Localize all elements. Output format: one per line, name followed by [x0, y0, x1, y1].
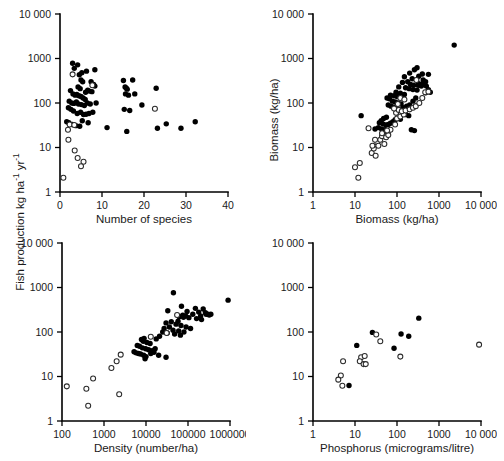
data-point-filled: [194, 316, 199, 321]
data-point-open: [164, 330, 169, 335]
data-point-open: [90, 83, 95, 88]
x-tick-label: 100: [388, 199, 406, 211]
data-point-filled: [85, 120, 90, 125]
y-tick-label: 1000: [281, 52, 305, 64]
data-point-open: [61, 175, 66, 180]
data-point-filled: [75, 62, 80, 67]
data-point-filled: [153, 86, 158, 91]
data-point-filled: [89, 89, 94, 94]
series-filled-circles: [346, 315, 421, 388]
data-point-filled: [186, 315, 191, 320]
data-point-open: [84, 386, 89, 391]
data-point-filled: [406, 113, 411, 118]
data-point-filled: [80, 79, 85, 84]
series-open-circles: [336, 332, 482, 388]
data-point-filled: [80, 118, 85, 123]
axis-frame: [313, 243, 481, 421]
y-tick-label: 10: [41, 370, 53, 382]
y-tick-label: 1: [47, 415, 53, 427]
y-tick-label: 10: [39, 141, 51, 153]
data-point-filled: [165, 308, 170, 313]
data-point-open: [380, 131, 385, 136]
y-axis-label-left-column: Fish production kg ha-1 yr-1: [14, 153, 26, 290]
data-point-open: [75, 156, 80, 161]
x-tick-label: 1: [310, 428, 316, 440]
data-point-open: [117, 392, 122, 397]
data-point-filled: [172, 331, 177, 336]
data-point-open: [148, 334, 153, 339]
x-axis-label: Phosphorus (micrograms/litre): [320, 442, 474, 454]
data-point-filled: [402, 74, 407, 79]
data-point-filled: [164, 121, 169, 126]
data-point-open: [374, 332, 379, 337]
y-tick-label: 1: [45, 186, 51, 198]
y-tick-label: 1000: [30, 281, 54, 293]
data-point-filled: [93, 100, 98, 105]
x-tick-label: 1000: [427, 428, 451, 440]
data-point-filled: [193, 119, 198, 124]
series-filled-circles: [358, 42, 456, 133]
axis-frame: [62, 243, 230, 421]
data-point-filled: [354, 343, 359, 348]
panel-phosphorus: 110100100010 000110100100010 000Phosphor…: [267, 239, 497, 455]
data-point-filled: [412, 128, 417, 133]
data-point-filled: [163, 355, 168, 360]
data-point-filled: [70, 61, 75, 66]
x-tick-label: 10 000: [465, 428, 497, 440]
data-point-open: [392, 106, 397, 111]
data-point-filled: [77, 86, 82, 91]
data-point-open: [72, 148, 77, 153]
data-point-open: [72, 123, 77, 128]
x-tick-label: 1: [310, 199, 316, 211]
panel-species: 010203040110100100010 000Number of speci…: [14, 10, 244, 226]
data-point-open: [118, 352, 123, 357]
data-point-filled: [147, 341, 152, 346]
data-point-filled: [92, 67, 97, 72]
data-point-filled: [400, 80, 405, 85]
y-tick-label: 10 000: [19, 10, 51, 20]
y-tick-label: 100: [35, 326, 53, 338]
x-tick-label: 100: [53, 428, 71, 440]
x-tick-label: 10: [96, 199, 108, 211]
y-tick-label: 100: [286, 326, 304, 338]
x-tick-label: 10: [349, 199, 361, 211]
data-point-filled: [139, 102, 144, 107]
data-point-filled: [181, 315, 186, 320]
y-tick-label: 10 000: [272, 10, 304, 20]
data-point-filled: [90, 110, 95, 115]
y-tick-label: 10: [292, 141, 304, 153]
data-point-open: [152, 106, 157, 111]
data-point-filled: [156, 353, 161, 358]
data-point-filled: [77, 124, 82, 129]
x-tick-label: 100000: [170, 428, 205, 440]
data-point-open: [64, 384, 69, 389]
y-tick-label: 1000: [28, 52, 52, 64]
x-axis-label: Number of species: [96, 213, 192, 225]
y-tick-label: 1000: [281, 281, 305, 293]
y-axis-label-right-column: Biomass (kg/ha): [268, 78, 280, 161]
x-tick-label: 100: [388, 428, 406, 440]
data-point-filled: [451, 42, 456, 47]
data-point-open: [398, 354, 403, 359]
data-point-open: [336, 377, 341, 382]
data-point-open: [426, 89, 431, 94]
y-tick-label: 10: [292, 370, 304, 382]
data-point-filled: [88, 101, 93, 106]
data-point-filled: [171, 290, 176, 295]
y-tick-label: 100: [33, 97, 51, 109]
data-point-open: [393, 122, 398, 127]
data-point-open: [385, 128, 390, 133]
data-point-open: [376, 143, 381, 148]
data-point-open: [414, 77, 419, 82]
data-point-open: [114, 359, 119, 364]
data-point-open: [353, 165, 358, 170]
data-point-filled: [124, 129, 129, 134]
data-point-open: [477, 342, 482, 347]
data-point-open: [373, 153, 378, 158]
series-filled-circles: [64, 61, 198, 135]
data-point-filled: [125, 86, 130, 91]
data-point-open: [86, 403, 91, 408]
data-point-open: [175, 313, 180, 318]
figure-container: 010203040110100100010 000Number of speci…: [0, 0, 504, 461]
data-point-open: [341, 359, 346, 364]
